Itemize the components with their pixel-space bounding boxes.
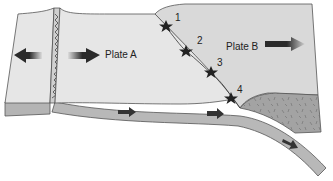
plate-a-left-block bbox=[5, 8, 54, 116]
svg-text:4: 4 bbox=[237, 84, 243, 95]
plate-a-label: Plate A bbox=[105, 49, 137, 60]
svg-text:3: 3 bbox=[217, 57, 223, 68]
plate-tectonics-diagram: 1 2 3 4 Plate A Plate B bbox=[0, 0, 333, 181]
svg-text:2: 2 bbox=[197, 35, 203, 46]
plate-b-label: Plate B bbox=[226, 41, 259, 52]
svg-text:1: 1 bbox=[175, 12, 181, 23]
